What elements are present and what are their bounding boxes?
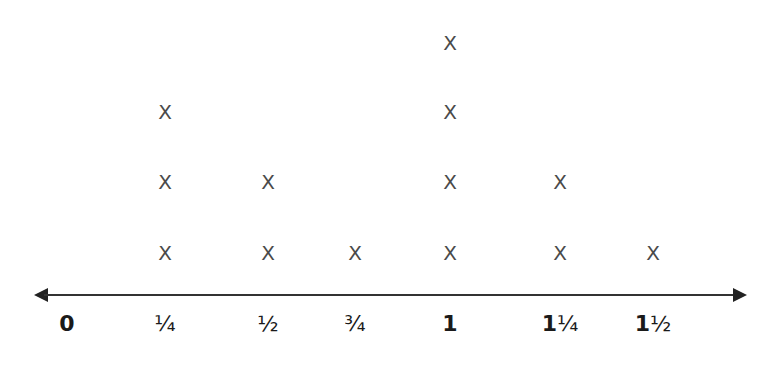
data-mark: X — [348, 243, 362, 263]
data-mark: X — [158, 172, 172, 192]
data-mark: X — [646, 243, 660, 263]
number-line-axis — [44, 294, 734, 296]
data-mark: X — [443, 172, 457, 192]
data-mark: X — [553, 172, 567, 192]
data-mark: X — [158, 102, 172, 122]
data-mark: X — [443, 102, 457, 122]
tick-label: ¾ — [344, 313, 365, 335]
tick-label: ½ — [257, 313, 278, 335]
tick-label: 1 — [442, 313, 457, 335]
tick-label: 1½ — [635, 313, 672, 335]
data-mark: X — [443, 33, 457, 53]
data-mark: X — [158, 243, 172, 263]
data-mark: X — [443, 243, 457, 263]
axis-arrow-right-icon — [733, 288, 747, 302]
data-mark: X — [261, 172, 275, 192]
tick-label: 1¼ — [542, 313, 579, 335]
tick-label: ¼ — [154, 313, 175, 335]
line-plot: 0¼½¾11¼1½ XXXXXXXXXXXXX — [0, 0, 770, 368]
data-mark: X — [261, 243, 275, 263]
tick-label: 0 — [59, 313, 74, 335]
data-mark: X — [553, 243, 567, 263]
